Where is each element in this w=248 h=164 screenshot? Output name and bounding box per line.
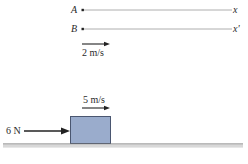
force-label: 6 N <box>6 126 21 136</box>
diagram-canvas <box>0 0 248 164</box>
ground-shadow <box>3 145 243 148</box>
block-velocity-arrow-head-icon <box>104 106 110 110</box>
velocity-arrow-head-icon <box>104 42 110 46</box>
track-b-end-label: x' <box>233 24 240 34</box>
velocity-top-label: 2 m/s <box>82 48 104 58</box>
track-a-end-label: x <box>233 5 237 15</box>
point-b-dot <box>82 28 84 30</box>
block-velocity-label: 5 m/s <box>83 95 105 105</box>
point-b-label: B <box>71 24 77 34</box>
block <box>71 117 111 144</box>
force-arrow-head-icon <box>61 128 70 135</box>
point-a-label: A <box>71 5 77 15</box>
point-a-dot <box>82 9 84 11</box>
